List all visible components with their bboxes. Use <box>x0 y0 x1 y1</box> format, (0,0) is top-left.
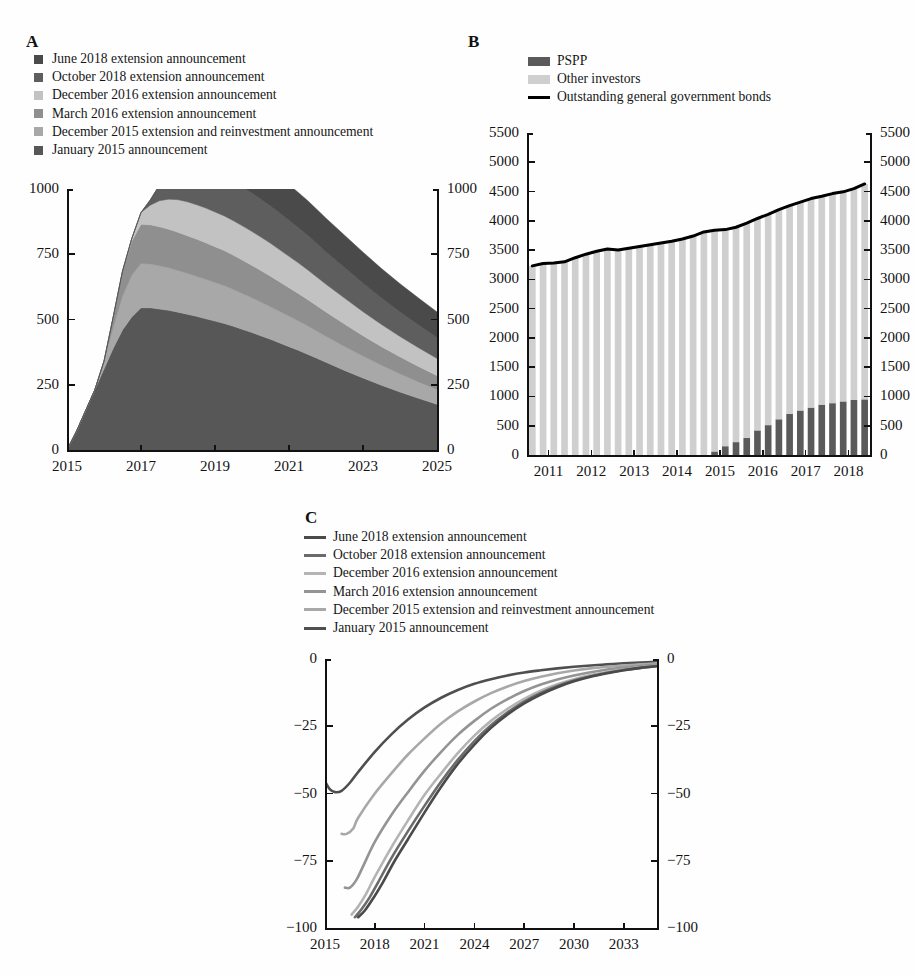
y-axis-label: 4000 <box>880 213 915 228</box>
bar-segment-pspp <box>840 401 847 455</box>
y-axis-label: 4500 <box>880 184 915 199</box>
panel-a-plot: 0025025050050075075010001000201520172019… <box>0 0 460 480</box>
bar-segment-other-investors <box>550 263 557 455</box>
y-axis-label: 2500 <box>477 301 519 316</box>
x-tick <box>214 445 216 451</box>
x-axis <box>527 455 872 457</box>
x-axis-label: 2019 <box>185 459 245 474</box>
y-axis-label: 1500 <box>477 359 519 374</box>
panel-c: C June 2018 extension announcementOctobe… <box>0 490 908 975</box>
bar-segment-other-investors <box>658 243 665 455</box>
y-axis-label: 2500 <box>880 301 915 316</box>
y-tick <box>529 337 535 339</box>
x-axis-label: 2018 <box>819 464 879 479</box>
y-axis-label: 5000 <box>477 154 519 169</box>
y-axis-label: 0 <box>880 447 915 462</box>
bar-segment-other-investors <box>776 210 783 420</box>
y-axis-label: 4000 <box>477 213 519 228</box>
line-series-5 <box>358 666 657 917</box>
x-tick <box>591 450 593 456</box>
bar-segment-other-investors <box>701 232 708 455</box>
y-axis-right <box>437 189 439 450</box>
y-tick <box>529 279 535 281</box>
y-axis-left-cap <box>67 189 73 191</box>
y-axis-label: −75 <box>277 853 317 868</box>
y-axis-label: 500 <box>477 418 519 433</box>
y-tick <box>864 279 870 281</box>
y-axis-label: −75 <box>667 853 707 868</box>
line-series-3 <box>352 666 657 915</box>
y-axis-label: 2000 <box>477 330 519 345</box>
y-tick <box>651 793 657 795</box>
y-tick <box>529 191 535 193</box>
y-axis-label: 500 <box>880 418 915 433</box>
y-tick <box>327 793 333 795</box>
bar-segment-other-investors <box>561 262 568 455</box>
bar-segment-other-investors <box>840 192 847 402</box>
bar-chart-canvas <box>528 133 871 455</box>
bar-segment-pspp <box>754 430 761 455</box>
bar-segment-other-investors <box>626 248 633 455</box>
x-tick <box>573 923 575 929</box>
line-series-4 <box>355 666 657 917</box>
bar-segment-pspp <box>786 414 793 455</box>
bar-segment-other-investors <box>540 264 547 455</box>
bar-segment-other-investors <box>679 239 686 455</box>
bar-segment-pspp <box>776 419 783 455</box>
bar-segment-other-investors <box>572 258 579 455</box>
y-tick <box>69 253 75 255</box>
y-tick <box>529 425 535 427</box>
x-tick <box>676 450 678 456</box>
y-tick <box>864 366 870 368</box>
y-tick <box>327 725 333 727</box>
panel-c-plot: 00−25−25−50−50−75−75−100−100201520182021… <box>0 490 908 975</box>
y-axis-right <box>870 133 872 455</box>
bar-segment-other-investors <box>593 251 600 455</box>
y-tick <box>864 337 870 339</box>
bar-segment-pspp <box>722 446 729 455</box>
x-tick <box>623 923 625 929</box>
y-axis-label: −50 <box>667 786 707 801</box>
panel-b: B PSPPOther investorsOutstanding general… <box>460 0 908 480</box>
y-tick <box>529 161 535 163</box>
bar-segment-other-investors <box>765 214 772 425</box>
x-tick <box>424 923 426 929</box>
y-axis-right-cap <box>433 189 439 191</box>
bar-segment-other-investors <box>647 245 654 455</box>
y-axis-label: 0 <box>477 447 519 462</box>
y-tick <box>864 396 870 398</box>
y-tick <box>529 249 535 251</box>
bar-segment-other-investors <box>604 249 611 455</box>
y-axis-label: 4500 <box>477 184 519 199</box>
bar-segment-other-investors <box>529 266 536 455</box>
y-tick <box>69 319 75 321</box>
y-axis-label: 0 <box>277 651 317 666</box>
y-axis-label: 5500 <box>477 125 519 140</box>
y-axis-right <box>657 659 659 928</box>
x-axis-label: 2015 <box>37 459 97 474</box>
y-tick <box>864 161 870 163</box>
area-chart-canvas <box>68 189 438 450</box>
x-tick <box>523 923 525 929</box>
y-tick <box>431 253 437 255</box>
bar-segment-pspp <box>808 408 815 455</box>
y-axis-label: 1000 <box>880 388 915 403</box>
y-axis-label: 1500 <box>880 359 915 374</box>
x-axis-label: 2033 <box>594 937 654 952</box>
x-tick <box>762 450 764 456</box>
x-axis <box>67 450 439 452</box>
y-tick <box>529 220 535 222</box>
line-series-2 <box>345 665 657 889</box>
x-axis-label: 2017 <box>111 459 171 474</box>
y-tick <box>651 860 657 862</box>
y-axis-label: 3500 <box>880 242 915 257</box>
y-axis-label: −100 <box>277 920 317 935</box>
x-tick <box>805 450 807 456</box>
bar-segment-pspp <box>743 438 750 455</box>
y-axis-label: 5500 <box>880 125 915 140</box>
y-axis-label: 5000 <box>880 154 915 169</box>
y-axis-label: 3000 <box>880 271 915 286</box>
line-chart-canvas <box>326 659 658 928</box>
y-axis-label: 0 <box>15 442 59 457</box>
bar-segment-pspp <box>733 442 740 455</box>
